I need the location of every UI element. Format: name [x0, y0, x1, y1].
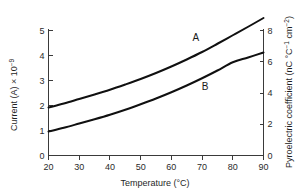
y-right-tick-label-4: 4 [268, 88, 273, 98]
y-axis-right-tick-labels: 02468 [268, 26, 273, 161]
curve-label-A: A [193, 32, 200, 43]
chart-plot-area: 2030405060708090 012345 02468 AB Tempera… [0, 0, 307, 193]
x-axis-tick-labels: 2030405060708090 [43, 162, 268, 172]
y-axis-right-ticks [260, 31, 264, 156]
x-tick-label-50: 50 [136, 162, 146, 172]
data-curves [49, 18, 264, 132]
x-axis-ticks [49, 156, 264, 160]
y-axis-left-ticks [49, 31, 53, 156]
y-right-tick-label-0: 0 [268, 151, 273, 161]
y-right-tick-label-8: 8 [268, 26, 273, 36]
y-axis-left-title: Current (A) × 10−9 [8, 59, 20, 132]
x-tick-label-30: 30 [74, 162, 84, 172]
y-axis-right-title: Pyroelectric coefficient (nC °C−1 cm−2) [283, 16, 295, 168]
x-tick-label-60: 60 [166, 162, 176, 172]
curve-label-B: B [202, 81, 209, 92]
y-axis-left-tick-labels: 012345 [39, 26, 44, 161]
y-left-tick-label-3: 3 [39, 76, 44, 86]
y-left-tick-label-2: 2 [39, 101, 44, 111]
y-left-tick-label-0: 0 [39, 151, 44, 161]
chart-figure: 2030405060708090 012345 02468 AB Tempera… [0, 0, 307, 193]
y-left-tick-label-1: 1 [39, 126, 44, 136]
x-tick-label-90: 90 [258, 162, 268, 172]
x-tick-label-40: 40 [105, 162, 115, 172]
x-axis-title: Temperature (°C) [120, 178, 189, 188]
y-right-tick-label-2: 2 [268, 119, 273, 129]
y-left-tick-label-5: 5 [39, 26, 44, 36]
y-right-tick-label-6: 6 [268, 57, 273, 67]
x-tick-label-80: 80 [228, 162, 238, 172]
curve-B [49, 53, 264, 132]
y-left-tick-label-4: 4 [39, 51, 44, 61]
x-tick-label-70: 70 [197, 162, 207, 172]
x-tick-label-20: 20 [43, 162, 53, 172]
